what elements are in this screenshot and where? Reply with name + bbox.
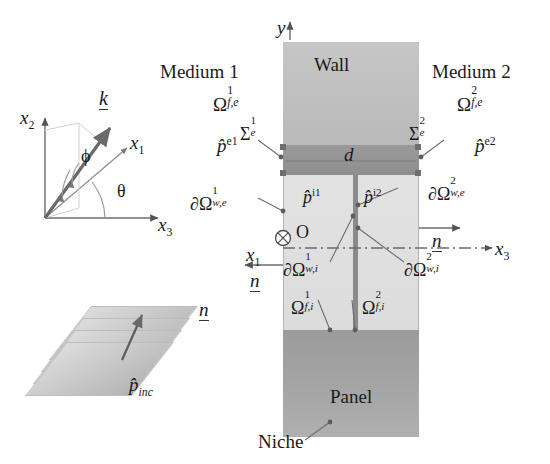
boundary-1-ext: ∂Ω1w,e bbox=[190, 192, 248, 213]
p-hat-sup: i1 bbox=[312, 186, 321, 198]
x-sub: 3 bbox=[166, 226, 172, 239]
x-sub: 1 bbox=[138, 144, 144, 157]
x-sub: 2 bbox=[28, 119, 34, 132]
medium-1-name: Medium 1 bbox=[160, 62, 239, 81]
cavity-1-pressure: p̂i1 bbox=[303, 188, 321, 206]
wall-label: Wall bbox=[314, 55, 349, 74]
normal-right-label: n bbox=[432, 231, 442, 252]
omega-glyph: Ω bbox=[213, 94, 227, 115]
p-hat-glyph: p̂ bbox=[303, 187, 312, 207]
p-hat-glyph: p̂ bbox=[129, 374, 139, 395]
x-sub: 1 bbox=[254, 256, 260, 269]
n-glyph: n bbox=[199, 299, 209, 320]
boundary-1-int: ∂Ω1w,i bbox=[283, 258, 341, 279]
omega-sup: 2 bbox=[471, 85, 477, 97]
sigma-glyph: Σ bbox=[409, 124, 419, 144]
p-hat-sup: e2 bbox=[485, 135, 496, 148]
incident-pressure-label: p̂inc bbox=[129, 375, 153, 394]
axis-x3-label: x3 bbox=[495, 239, 509, 258]
partial-omega-glyph: ∂Ω bbox=[428, 184, 450, 204]
panel-label: Panel bbox=[330, 387, 372, 406]
local-x2-label: x2 bbox=[20, 108, 34, 127]
sigma-2-label: Σ2e bbox=[409, 122, 439, 143]
n-glyph: n bbox=[432, 230, 442, 251]
omega-sup: 1 bbox=[227, 85, 233, 97]
p-hat-sub: inc bbox=[139, 386, 153, 399]
k-glyph: k bbox=[99, 87, 108, 109]
bnd-sub: w,i bbox=[426, 263, 439, 274]
boundary-2-int: ∂Ω2w,i bbox=[404, 258, 462, 279]
x-sub: 3 bbox=[503, 250, 509, 263]
bnd-sup: 2 bbox=[450, 175, 456, 186]
n-glyph: n bbox=[250, 270, 260, 291]
medium-1-domain: Ω1f,e bbox=[213, 92, 258, 114]
angle-theta-label: θ bbox=[117, 182, 126, 200]
medium-2-pressure: p̂e2 bbox=[475, 136, 496, 155]
cavity-2-pressure: p̂i2 bbox=[364, 188, 382, 206]
partial-omega-glyph: ∂Ω bbox=[283, 260, 305, 280]
sigma-sup: 1 bbox=[250, 115, 256, 126]
omega-sub: f,i bbox=[375, 301, 384, 312]
normal-incident-label: n bbox=[199, 300, 209, 321]
sigma-sub: e bbox=[250, 127, 255, 138]
omega-sup: 1 bbox=[304, 289, 310, 300]
omega-glyph: Ω bbox=[362, 298, 375, 318]
p-hat-glyph: p̂ bbox=[364, 187, 373, 207]
sigma-1-label: Σ1e bbox=[240, 122, 270, 143]
local-x3-label: x3 bbox=[158, 215, 172, 234]
sigma-glyph: Σ bbox=[240, 124, 250, 144]
omega-glyph: Ω bbox=[457, 94, 471, 115]
omega-sub: f,e bbox=[227, 97, 238, 109]
omega-glyph: Ω bbox=[291, 298, 304, 318]
local-x1-label: x1 bbox=[130, 133, 144, 152]
partial-omega-glyph: ∂Ω bbox=[190, 194, 212, 214]
boundary-2-ext: ∂Ω2w,e bbox=[428, 182, 486, 203]
p-hat-glyph: p̂ bbox=[475, 135, 485, 156]
bnd-sub: w,e bbox=[212, 197, 226, 208]
sigma-sup: 2 bbox=[419, 115, 425, 126]
cavity-1-domain: Ω1f,i bbox=[291, 296, 331, 317]
leader-endpoint-dots bbox=[279, 155, 424, 425]
origin-axis-label: x1 bbox=[246, 245, 260, 264]
niche-label: Niche bbox=[258, 432, 303, 451]
bnd-sup: 1 bbox=[212, 185, 218, 196]
origin-label: O bbox=[296, 223, 309, 241]
medium-2-name: Medium 2 bbox=[432, 62, 511, 81]
bnd-sub: w,e bbox=[450, 187, 464, 198]
medium-2-domain: Ω2f,e bbox=[457, 92, 502, 114]
cavity-2-domain: Ω2f,i bbox=[362, 296, 402, 317]
angle-phi-label: ϕ bbox=[81, 147, 90, 165]
partial-omega-glyph: ∂Ω bbox=[404, 260, 426, 280]
p-hat-sup: i2 bbox=[373, 186, 382, 198]
omega-sub: f,e bbox=[471, 97, 482, 109]
incident-direction-arrow bbox=[122, 315, 142, 360]
bnd-sup: 1 bbox=[305, 251, 311, 262]
bnd-sup: 2 bbox=[426, 251, 432, 262]
omega-sub: f,i bbox=[304, 301, 313, 312]
p-hat-sup: e1 bbox=[227, 135, 238, 148]
wavevector-label: k bbox=[99, 88, 108, 110]
p-hat-glyph: p̂ bbox=[217, 135, 227, 156]
origin-marker-icon bbox=[276, 231, 291, 246]
omega-sup: 2 bbox=[375, 289, 381, 300]
bnd-sub: w,i bbox=[305, 263, 318, 274]
thickness-label: d bbox=[344, 145, 354, 164]
normal-left-label: n bbox=[250, 271, 260, 292]
axis-y-label: y bbox=[277, 18, 285, 37]
figure-canvas: Wall Panel Niche d Medium 1 Ω1f,e p̂e1 Σ… bbox=[0, 0, 550, 464]
sigma-sub: e bbox=[419, 127, 424, 138]
medium-1-pressure: p̂e1 bbox=[217, 136, 238, 155]
